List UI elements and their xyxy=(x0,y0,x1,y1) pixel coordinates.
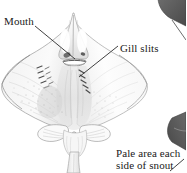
label-gill-slits: Gill slits xyxy=(120,42,159,54)
corner-fin-bottom-right xyxy=(168,112,187,150)
pale-area-right xyxy=(77,29,87,53)
corner-fin-top-right xyxy=(158,0,186,40)
label-mouth: Mouth xyxy=(4,15,34,27)
snout-ridge xyxy=(73,15,74,56)
ray-anatomy-figure: Mouth Gill slits Pale area each side of … xyxy=(0,0,186,173)
label-pale-area-line2: side of snout xyxy=(116,159,180,171)
label-pale-area: Pale area each side of snout xyxy=(116,147,180,171)
label-pale-area-line1: Pale area each xyxy=(116,147,180,159)
pale-area-left xyxy=(60,29,70,53)
